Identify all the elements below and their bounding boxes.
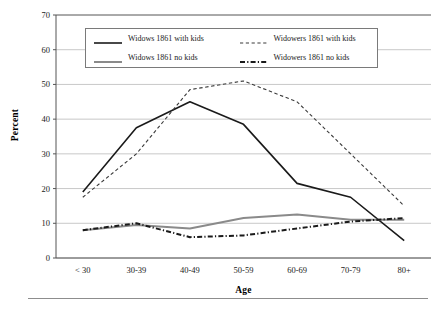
series-line-1 (83, 81, 404, 206)
x-axis-title: Age (56, 285, 431, 295)
x-tick-label: 80+ (377, 265, 431, 275)
y-tick-label: 30 (28, 149, 50, 159)
legend-entry-widows-with-kids: Widows 1861 with kids (86, 29, 232, 48)
y-tick-label: 20 (28, 184, 50, 194)
x-tick-label: < 30 (56, 265, 110, 275)
legend-entry-widows-no-kids: Widows 1861 no kids (86, 48, 232, 67)
y-tick-label: 40 (28, 114, 50, 124)
x-tick-label: 30-39 (109, 265, 163, 275)
legend-swatch-widows-with-kids (93, 34, 123, 44)
y-tick-label: 60 (28, 45, 50, 55)
legend-label-widowers-no-kids: Widowers 1861 no kids (274, 53, 350, 62)
legend-swatch-widowers-with-kids (239, 34, 269, 44)
chart-legend: Widows 1861 with kids Widowers 1861 with… (85, 28, 378, 68)
legend-swatch-widows-no-kids (93, 53, 123, 63)
data-series-group (83, 81, 404, 241)
x-tick-label: 40-49 (163, 265, 217, 275)
series-line-3 (83, 218, 404, 237)
figure-separator-rule (28, 298, 428, 299)
legend-label-widows-with-kids: Widows 1861 with kids (128, 34, 204, 43)
legend-entry-widowers-no-kids: Widowers 1861 no kids (232, 48, 378, 67)
series-line-2 (83, 215, 404, 231)
legend-swatch-widowers-no-kids (239, 53, 269, 63)
x-tick-label: 60-69 (270, 265, 324, 275)
y-tick-label: 10 (28, 218, 50, 228)
legend-label-widows-no-kids: Widows 1861 no kids (128, 53, 198, 62)
x-tick-label: 70-79 (324, 265, 378, 275)
y-axis-title: Percent (10, 95, 20, 155)
y-tick-label: 0 (28, 253, 50, 263)
legend-entry-widowers-with-kids: Widowers 1861 with kids (232, 29, 378, 48)
legend-label-widowers-with-kids: Widowers 1861 with kids (274, 34, 356, 43)
y-tick-label: 50 (28, 79, 50, 89)
figure-container: Percent Age 010203040506070 < 3030-3940-… (0, 0, 437, 313)
x-tick-label: 50-59 (217, 265, 271, 275)
y-tick-label: 70 (28, 10, 50, 20)
